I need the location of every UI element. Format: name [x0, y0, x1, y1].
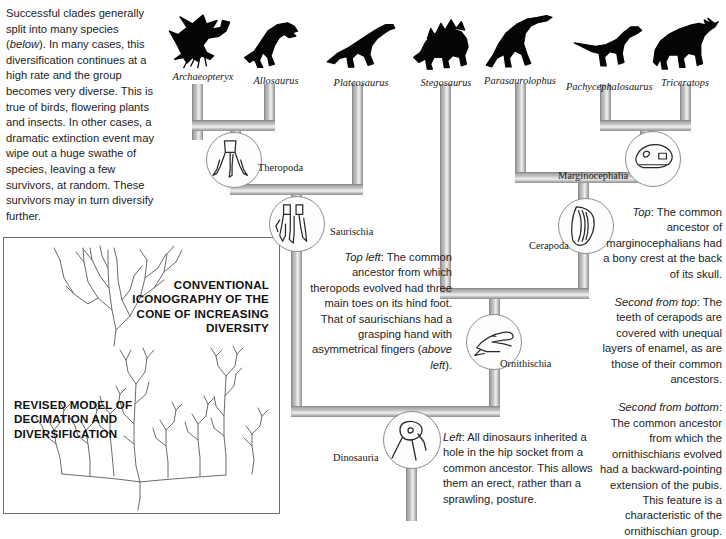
- intro-paragraph: Successful clades generally split into m…: [6, 6, 154, 224]
- caption-right-column: Top: The common ancestor of marginocepha…: [598, 205, 722, 539]
- diversity-model-box: CONVENTIONAL ICONOGRAPHY OF THE CONE OF …: [3, 237, 280, 514]
- caption-paragraph: Second from bottom: The common ancestor …: [598, 400, 722, 539]
- taxon-archaeopteryx[interactable]: Archaeopteryx: [167, 8, 239, 82]
- taxon-plateosaurus[interactable]: Plateosaurus: [322, 14, 400, 88]
- stegosaurus-silhouette: [412, 14, 480, 76]
- clade-label-saurischia: Saurischia: [330, 226, 373, 237]
- intro-text-run: ). In many cases, this diversification c…: [6, 38, 154, 222]
- saurischian-grasping-hand-icon: [274, 201, 320, 247]
- taxon-label: Parasaurolophus: [478, 75, 562, 86]
- caption-lead: above left: [422, 343, 452, 370]
- clade-node-marginocephalia[interactable]: [625, 131, 681, 187]
- caption-paragraph: Top: The common ancestor of marginocepha…: [598, 205, 722, 282]
- taxon-label: Stegosaurus: [412, 77, 480, 88]
- clade-label-ornithischia: Ornithischia: [500, 358, 551, 369]
- theropod-hind-foot-icon: [211, 137, 257, 183]
- intro-text-run: below: [10, 38, 39, 50]
- caption-lead: Left: [443, 431, 462, 443]
- taxon-label: Triceratops: [650, 77, 720, 88]
- caption-lead: Second from top: [615, 296, 697, 308]
- clade-label-cerapoda: Cerapoda: [529, 240, 569, 251]
- caption-lead: Top left: [344, 251, 380, 263]
- caption-lead: Top: [632, 206, 650, 218]
- taxon-label: Plateosaurus: [322, 77, 400, 88]
- taxon-stegosaurus[interactable]: Stegosaurus: [412, 14, 480, 88]
- taxon-pachycephalosaurus[interactable]: Pachycephalosaurus: [566, 18, 650, 92]
- caption-left: Left: All dinosaurs inherited a hole in …: [443, 430, 603, 507]
- conventional-model-caption: CONVENTIONAL ICONOGRAPHY OF THE CONE OF …: [109, 278, 269, 336]
- taxon-parasaurolophus[interactable]: Parasaurolophus: [478, 12, 562, 86]
- plateosaurus-silhouette: [322, 14, 400, 76]
- caption-lead: Second from bottom: [618, 401, 719, 413]
- allosaurus-silhouette: [243, 12, 309, 74]
- pachycephalosaur-skull-icon: [630, 136, 676, 182]
- triceratops-silhouette: [650, 14, 720, 76]
- taxon-label: Archaeopteryx: [167, 71, 239, 82]
- clade-node-dinosauria[interactable]: [383, 411, 441, 469]
- parasaurolophus-silhouette: [478, 12, 562, 74]
- taxon-label: Allosaurus: [243, 75, 309, 86]
- caption-top-left: Top left: The common ancestor from which…: [300, 250, 452, 373]
- archaeopteryx-silhouette: [167, 8, 239, 70]
- taxon-allosaurus[interactable]: Allosaurus: [243, 12, 309, 86]
- clade-node-saurischia[interactable]: [269, 196, 325, 252]
- clade-label-dinosauria: Dinosauria: [333, 452, 379, 463]
- clade-label-theropoda: Theropoda: [258, 162, 303, 173]
- hip-socket-icon: [388, 416, 436, 464]
- taxon-label: Pachycephalosaurus: [566, 81, 650, 92]
- clade-label-marginocephalia: Marginocephalia: [558, 170, 628, 181]
- pachycephalosaurus-silhouette: [566, 18, 650, 80]
- taxon-triceratops[interactable]: Triceratops: [650, 14, 720, 88]
- revised-model-caption: REVISED MODEL OF DECIMATION AND DIVERSIF…: [14, 398, 164, 441]
- caption-paragraph: Second from top: The teeth of cerapods a…: [598, 295, 722, 387]
- clade-node-theropoda[interactable]: [206, 132, 262, 188]
